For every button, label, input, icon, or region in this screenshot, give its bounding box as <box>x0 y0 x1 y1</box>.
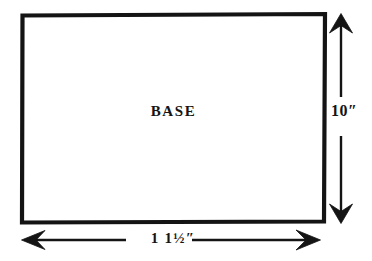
width-dimension-label: 1 1½″ <box>0 231 346 246</box>
diagram-canvas <box>0 0 372 261</box>
height-dimension-label: 10″ <box>331 103 357 119</box>
base-label: BASE <box>0 104 347 119</box>
base-dimension-diagram: BASE 10″ 1 1½″ <box>0 0 372 261</box>
